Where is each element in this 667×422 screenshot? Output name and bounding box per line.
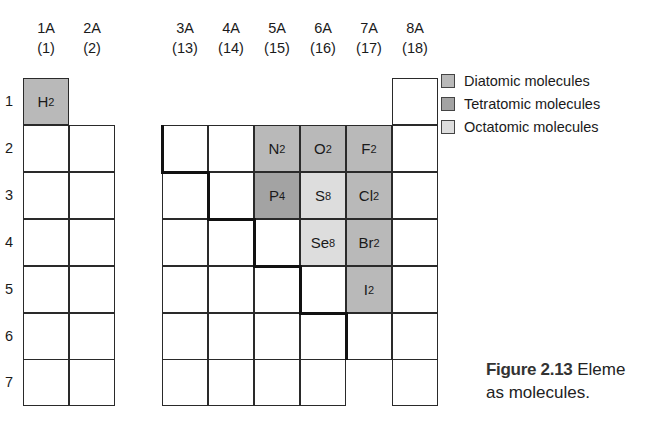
element-cell bbox=[300, 266, 346, 313]
element-cell-H2: H2 bbox=[23, 78, 69, 125]
element-cell bbox=[392, 266, 438, 313]
legend-item-tetratomic: Tetratomic molecules bbox=[441, 93, 600, 115]
element-cell-I2: I2 bbox=[346, 266, 392, 313]
element-cell bbox=[69, 313, 115, 360]
molecule-symbol: H bbox=[38, 93, 49, 110]
group-label: 1A bbox=[23, 18, 69, 38]
element-cell bbox=[23, 125, 69, 172]
period-label-2: 2 bbox=[2, 140, 16, 156]
group-label: 3A bbox=[162, 18, 208, 38]
group-number: (16) bbox=[300, 38, 346, 58]
element-cell bbox=[23, 219, 69, 266]
molecule-symbol: P bbox=[269, 187, 279, 204]
group-label: 2A bbox=[69, 18, 115, 38]
caption-text: Eleme bbox=[577, 360, 625, 379]
staircase-line bbox=[161, 125, 164, 173]
period-label-5: 5 bbox=[2, 281, 16, 297]
element-cell bbox=[346, 313, 392, 360]
group-header-8A: 8A (18) bbox=[392, 18, 438, 58]
figure-caption: Figure 2.13 Eleme as molecules. bbox=[486, 358, 625, 404]
group-header-7A: 7A (17) bbox=[346, 18, 392, 58]
element-cell bbox=[392, 78, 438, 125]
legend-swatch bbox=[441, 74, 455, 88]
staircase-line bbox=[345, 312, 348, 360]
molecule-symbol: F bbox=[361, 140, 370, 157]
group-label: 6A bbox=[300, 18, 346, 38]
legend-label: Tetratomic molecules bbox=[464, 96, 600, 112]
group-label: 4A bbox=[208, 18, 254, 38]
staircase-line bbox=[207, 218, 256, 221]
element-cell-Se8: Se8 bbox=[300, 219, 346, 266]
molecule-symbol: Cl bbox=[359, 187, 373, 204]
element-cell bbox=[208, 266, 254, 313]
group-header-3A: 3A (13) bbox=[162, 18, 208, 58]
element-cell-S8: S8 bbox=[300, 172, 346, 219]
element-cell bbox=[162, 125, 208, 172]
element-cell bbox=[69, 219, 115, 266]
molecule-symbol: Br bbox=[358, 234, 373, 251]
group-label: 8A bbox=[392, 18, 438, 38]
element-cell bbox=[254, 359, 300, 406]
group-number: (14) bbox=[208, 38, 254, 58]
molecule-symbol: Se bbox=[311, 234, 329, 251]
staircase-line bbox=[299, 265, 302, 314]
group-number: (13) bbox=[162, 38, 208, 58]
element-cell bbox=[23, 266, 69, 313]
period-label-3: 3 bbox=[2, 187, 16, 203]
element-cell bbox=[254, 219, 300, 266]
legend-label: Octatomic molecules bbox=[464, 119, 599, 135]
element-cell bbox=[69, 266, 115, 313]
element-cell-Br2: Br2 bbox=[346, 219, 392, 266]
element-cell bbox=[300, 313, 346, 360]
figure-number: Figure 2.13 bbox=[486, 360, 572, 379]
element-cell-O2: O2 bbox=[300, 125, 346, 172]
element-cell bbox=[300, 359, 346, 406]
period-label-6: 6 bbox=[2, 328, 16, 344]
group-header-2A: 2A (2) bbox=[69, 18, 115, 58]
element-cell bbox=[392, 219, 438, 266]
group-header-5A: 5A (15) bbox=[254, 18, 300, 58]
element-cell-P4: P4 bbox=[254, 172, 300, 219]
staircase-line bbox=[253, 265, 302, 268]
molecule-symbol: N bbox=[269, 140, 280, 157]
element-cell bbox=[162, 313, 208, 360]
element-cell bbox=[254, 313, 300, 360]
group-label: 5A bbox=[254, 18, 300, 38]
legend-swatch bbox=[441, 97, 455, 111]
group-number: (2) bbox=[69, 38, 115, 58]
element-cell bbox=[69, 172, 115, 219]
group-number: (1) bbox=[23, 38, 69, 58]
legend-label: Diatomic molecules bbox=[464, 73, 590, 89]
period-label-4: 4 bbox=[2, 234, 16, 250]
legend-item-diatomic: Diatomic molecules bbox=[441, 70, 600, 92]
staircase-line bbox=[299, 312, 348, 315]
staircase-line bbox=[253, 218, 256, 267]
group-number: (18) bbox=[392, 38, 438, 58]
element-cell bbox=[254, 266, 300, 313]
group-header-4A: 4A (14) bbox=[208, 18, 254, 58]
element-cell bbox=[392, 172, 438, 219]
group-number: (17) bbox=[346, 38, 392, 58]
element-cell bbox=[208, 313, 254, 360]
element-cell bbox=[162, 172, 208, 219]
group-header-6A: 6A (16) bbox=[300, 18, 346, 58]
caption-text-line2: as molecules. bbox=[486, 381, 625, 404]
element-cell bbox=[392, 313, 438, 360]
group-number: (15) bbox=[254, 38, 300, 58]
element-cell-Cl2: Cl2 bbox=[346, 172, 392, 219]
legend-swatch bbox=[441, 120, 455, 134]
element-cell bbox=[208, 359, 254, 406]
element-cell bbox=[69, 125, 115, 172]
legend-item-octatomic: Octatomic molecules bbox=[441, 116, 600, 138]
period-label-1: 1 bbox=[2, 93, 16, 109]
element-cell bbox=[23, 172, 69, 219]
element-cell bbox=[162, 219, 208, 266]
element-cell bbox=[23, 359, 69, 406]
element-cell bbox=[208, 172, 254, 219]
molecule-symbol: O bbox=[314, 140, 326, 157]
element-cell-F2: F2 bbox=[346, 125, 392, 172]
element-cell bbox=[162, 359, 208, 406]
element-cell bbox=[208, 125, 254, 172]
element-cell bbox=[23, 313, 69, 360]
group-header-1A: 1A (1) bbox=[23, 18, 69, 58]
